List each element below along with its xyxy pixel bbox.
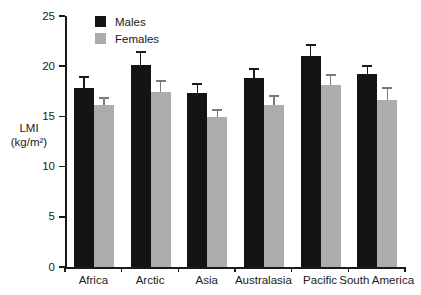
- y-tick-label: 5: [31, 210, 55, 222]
- error-bar-stem: [253, 68, 255, 78]
- category-label-asia: Asia: [195, 274, 217, 286]
- error-bar-stem: [83, 76, 85, 88]
- y-axis-label-line1: LMI: [0, 121, 58, 135]
- error-bar-stem: [197, 83, 199, 93]
- y-tick-label: 25: [31, 10, 55, 22]
- legend-row-males: Males: [95, 13, 159, 30]
- error-bar-cap: [269, 95, 279, 97]
- error-bar-cap: [249, 68, 259, 70]
- x-tick-mark: [178, 267, 180, 272]
- error-bar-cap: [212, 109, 222, 111]
- x-tick-mark: [291, 267, 293, 272]
- y-tick-mark: [59, 65, 65, 67]
- category-label-pacific: Pacific: [303, 274, 337, 286]
- error-bar-stem: [330, 74, 332, 85]
- error-bar-cap: [362, 65, 372, 67]
- category-label-australasia: Australasia: [235, 274, 292, 286]
- bar-males-australasia: [244, 78, 264, 267]
- error-bar-cap: [99, 97, 109, 99]
- error-bar-stem: [273, 95, 275, 105]
- error-bar-cap: [136, 51, 146, 53]
- error-bar-cap: [79, 76, 89, 78]
- error-bar-cap: [156, 80, 166, 82]
- legend-row-females: Females: [95, 30, 159, 47]
- bar-males-pacific: [301, 56, 321, 267]
- legend-swatch-females: [95, 33, 106, 44]
- category-label-africa: Africa: [79, 274, 108, 286]
- legend: MalesFemales: [95, 13, 159, 47]
- bar-females-asia: [207, 117, 227, 267]
- category-label-arctic: Arctic: [136, 274, 165, 286]
- error-bar-cap: [326, 74, 336, 76]
- legend-label-males: Males: [115, 16, 146, 28]
- x-tick-mark: [64, 267, 66, 272]
- bar-males-asia: [187, 93, 207, 267]
- y-tick-mark: [59, 166, 65, 168]
- y-tick-label: 15: [31, 110, 55, 122]
- y-axis-label: LMI (kg/m²): [0, 121, 58, 149]
- error-bar-stem: [160, 80, 162, 92]
- x-tick-mark: [404, 267, 406, 272]
- x-tick-mark: [121, 267, 123, 272]
- bar-females-pacific: [321, 85, 341, 267]
- bar-females-australasia: [264, 105, 284, 267]
- bar-females-south-america: [377, 100, 397, 267]
- x-tick-mark: [234, 267, 236, 272]
- legend-label-females: Females: [115, 33, 159, 45]
- bar-males-south-america: [357, 74, 377, 267]
- y-axis-label-line2: (kg/m²): [0, 135, 58, 149]
- bar-males-africa: [74, 88, 94, 267]
- error-bar-cap: [382, 87, 392, 89]
- y-tick-mark: [59, 116, 65, 118]
- y-tick-mark: [59, 216, 65, 218]
- bar-males-arctic: [131, 65, 151, 267]
- bar-females-arctic: [151, 92, 171, 267]
- bar-chart: LMI (kg/m²) MalesFemales 0510152025Afric…: [0, 0, 421, 295]
- category-label-south-america: South America: [339, 274, 414, 286]
- legend-swatch-males: [95, 16, 106, 27]
- x-tick-mark: [348, 267, 350, 272]
- y-tick-mark: [59, 15, 65, 17]
- y-axis: [65, 16, 67, 269]
- bar-females-africa: [94, 105, 114, 267]
- y-tick-label: 20: [31, 60, 55, 72]
- error-bar-stem: [140, 51, 142, 65]
- error-bar-cap: [306, 44, 316, 46]
- error-bar-stem: [310, 44, 312, 56]
- error-bar-stem: [387, 87, 389, 100]
- y-tick-label: 10: [31, 160, 55, 172]
- error-bar-cap: [192, 83, 202, 85]
- y-tick-label: 0: [31, 261, 55, 273]
